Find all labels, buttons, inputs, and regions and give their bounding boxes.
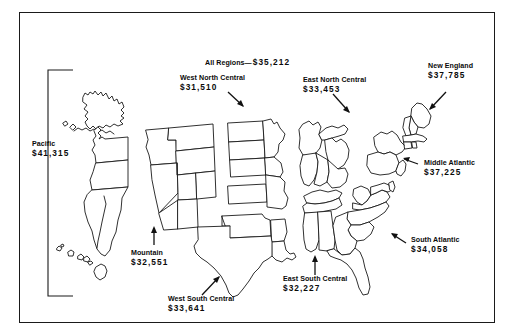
- label-mountain: Mountain $32,551: [131, 249, 168, 268]
- label-west-south-central-value: $33,641: [168, 304, 234, 314]
- label-west-south-central-name: West South Central: [168, 295, 234, 303]
- label-middle-atlantic-name: Middle Atlantic: [424, 159, 475, 167]
- label-south-atlantic-name: South Atlantic: [411, 236, 460, 244]
- label-all-regions-value: $35,212: [253, 58, 290, 68]
- label-west-south-central: West South Central $33,641: [168, 295, 234, 314]
- label-new-england-value: $37,785: [428, 71, 473, 81]
- label-west-north-central-name: West North Central: [180, 74, 245, 82]
- label-east-south-central: East South Central $32,227: [283, 275, 347, 294]
- label-new-england: New England $37,785: [428, 62, 473, 81]
- label-middle-atlantic-value: $37,225: [424, 168, 475, 178]
- label-east-north-central: East North Central $33,453: [303, 76, 366, 95]
- label-south-atlantic-value: $34,058: [411, 245, 460, 255]
- label-south-atlantic: South Atlantic $34,058: [411, 236, 460, 255]
- label-mountain-name: Mountain: [131, 249, 168, 257]
- label-east-south-central-value: $32,227: [283, 284, 347, 294]
- label-east-north-central-name: East North Central: [303, 76, 366, 84]
- label-pacific-name: Pacific: [32, 140, 69, 148]
- label-pacific: Pacific $41,315: [32, 140, 69, 159]
- figure-page: All Regions— $35,212 West North Central …: [0, 0, 513, 336]
- label-west-north-central: West North Central $31,510: [180, 74, 245, 93]
- label-east-north-central-value: $33,453: [303, 85, 366, 95]
- label-west-north-central-value: $31,510: [180, 83, 245, 93]
- label-all-regions-name: All Regions—: [205, 59, 252, 67]
- label-middle-atlantic: Middle Atlantic $37,225: [424, 159, 475, 178]
- label-east-south-central-name: East South Central: [283, 275, 347, 283]
- label-pacific-value: $41,315: [32, 149, 69, 159]
- label-new-england-name: New England: [428, 62, 473, 70]
- label-mountain-value: $32,551: [131, 258, 168, 268]
- label-all-regions: All Regions— $35,212: [205, 58, 290, 68]
